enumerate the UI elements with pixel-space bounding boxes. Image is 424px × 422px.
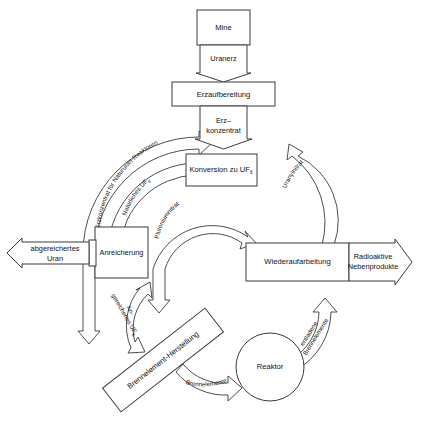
- flow-angereichertes-uf6: An- gereichertes UF6: [109, 282, 152, 353]
- node-konversion: Konversion zu UF6: [186, 154, 257, 186]
- node-radioaktive-nebenprodukte: Radioaktive Nebenprodukte: [348, 239, 412, 285]
- node-label-radioaktive-line1: Radioaktive: [354, 252, 393, 261]
- flow-plutoniumnitrat: Plutoniumnitrat: [148, 200, 256, 313]
- node-brennelement-herstellung: Brennelement-Herstellung: [103, 308, 224, 412]
- node-label-uranerz: Uranerz: [210, 54, 237, 63]
- node-erzaufbereitung: Erzaufbereitung: [172, 82, 275, 106]
- node-label-reaktor: Reaktor: [257, 362, 284, 371]
- node-label-erzaufbereitung: Erzaufbereitung: [197, 90, 251, 99]
- node-uranerz: Uranerz: [196, 45, 251, 82]
- node-mine: Mine: [197, 10, 250, 45]
- node-label-erzkonzentrat-line2: konzentrat: [206, 126, 241, 135]
- node-label-wiederaufarbeitung: Wiederaufarbeitung: [264, 257, 330, 266]
- node-label-anreicherung: Anreicherung: [100, 248, 144, 257]
- flow-label-plutoniumnitrat: Plutoniumnitrat: [153, 200, 181, 240]
- flow-label-uranylnitrat: Uranylnitrat: [281, 158, 305, 189]
- node-abgereichertes-uran: abgereichertes Uran: [7, 238, 89, 268]
- node-label-radioaktive-line2: Nebenprodukte: [348, 262, 399, 271]
- flow-uranylnitrat: Uranylnitrat: [281, 144, 339, 245]
- node-reaktor: Reaktor: [236, 333, 304, 401]
- node-label-mine: Mine: [215, 23, 231, 32]
- node-wiederaufarbeitung: Wiederaufarbeitung: [246, 243, 349, 281]
- node-label-abgereichertes-uran-line2: Uran: [47, 254, 63, 263]
- node-label-erzkonzentrat-line1: Erz–: [216, 116, 232, 125]
- flow-brennelemente: Brennelemente: [176, 364, 242, 401]
- fuel-cycle-diagram: Erzkonzentrat für Natururan-Reaktoren Na…: [0, 0, 424, 422]
- node-label-abgereichertes-uran-line1: abgereichertes: [31, 244, 80, 253]
- node-anreicherung: Anreicherung: [89, 227, 148, 278]
- flow-label-natuerliches-uf6: Natürliches UF6: [120, 177, 152, 216]
- node-label-konversion: Konversion zu UF6: [190, 165, 253, 175]
